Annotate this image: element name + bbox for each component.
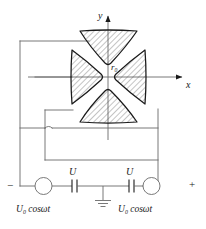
right-electrode bbox=[115, 50, 147, 104]
right-source-label: U0 cosωt bbox=[118, 205, 152, 216]
right-capacitor-label: U bbox=[126, 167, 133, 177]
x-axis-label: x bbox=[186, 80, 190, 90]
left-ac-source-symbol bbox=[35, 178, 52, 195]
diagram-canvas bbox=[0, 0, 206, 229]
negative-terminal-label: − bbox=[7, 180, 13, 191]
wire-hop-arc bbox=[45, 126, 52, 128]
left-capacitor-symbol bbox=[72, 180, 77, 193]
top-electrode bbox=[80, 30, 137, 65]
left-source-label: U0 cosωt bbox=[16, 205, 50, 216]
right-ac-source-symbol bbox=[143, 178, 160, 195]
left-electrode bbox=[71, 50, 103, 104]
left-capacitor-label: U bbox=[69, 167, 76, 177]
r0-label: r0 bbox=[111, 63, 117, 73]
positive-terminal-label: + bbox=[189, 179, 195, 190]
bottom-electrode bbox=[80, 90, 137, 124]
y-axis-label: y bbox=[98, 11, 102, 21]
right-capacitor-symbol bbox=[129, 180, 134, 193]
ground-symbol bbox=[95, 186, 111, 207]
quadrupole-circuit-figure: y x r0 U U − + U0 cosωt U0 cosωt bbox=[0, 0, 206, 229]
